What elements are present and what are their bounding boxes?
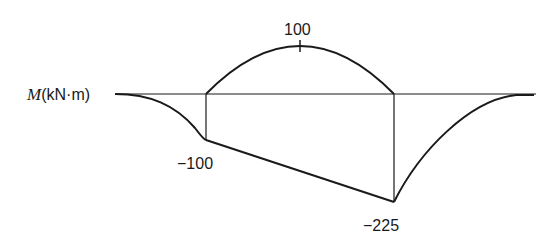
moment-symbol: M xyxy=(27,85,41,104)
moment-units: (kN·m) xyxy=(41,86,90,103)
span-negative-line xyxy=(206,140,394,202)
positive-peak-label: 100 xyxy=(284,22,311,38)
right-negative-curve xyxy=(394,95,534,202)
axis-label: M(kN·m) xyxy=(27,86,90,103)
positive-parabola xyxy=(206,46,394,94)
left-negative-curve xyxy=(115,94,206,140)
moment-diagram-canvas xyxy=(0,0,558,239)
right-support-moment-label: −225 xyxy=(363,218,399,234)
left-support-moment-label: −100 xyxy=(177,156,213,172)
